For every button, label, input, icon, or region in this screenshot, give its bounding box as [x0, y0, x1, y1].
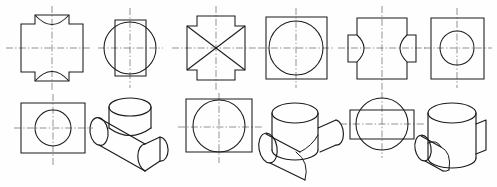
g3-iso-right-back-branch — [476, 120, 486, 154]
g3-isometric-vertical-cylinder-small-branch — [413, 103, 486, 171]
g3-front-view-cross-concave-sides — [338, 6, 425, 90]
g3-front-left-intersection-curve — [357, 35, 364, 62]
g1-isometric-tee-branch-cylinder — [88, 98, 168, 171]
g2-iso-right-branch-top-edge — [318, 120, 336, 128]
g3-top-view-circle-over-horizontal-rectangle — [340, 92, 425, 158]
g2-side-view-square-with-circle — [258, 8, 335, 88]
g2-iso-vertical-bottom-arc — [272, 150, 318, 160]
g3-side-rectangle — [431, 18, 484, 79]
g3-iso-branch-intersection-curve — [441, 147, 450, 170]
technical-drawing-canvas — [0, 0, 497, 187]
g1-front-view-cross-concave-top-bottom — [6, 6, 92, 90]
g1-iso-branch-top-ellipse — [109, 98, 151, 116]
g2-front-view-cross-with-diagonals — [172, 6, 258, 90]
g2-iso-right-branch-bottom-edge — [320, 145, 336, 152]
g2-iso-horizontal-bottom-edge — [270, 163, 305, 180]
g2-iso-vertical-top-ellipse — [272, 103, 318, 123]
g1-side-view-circle-over-rectangle — [98, 8, 163, 88]
g1-iso-main-cylinder-top-edge — [99, 118, 145, 144]
g1-iso-main-cylinder-left-face — [88, 116, 110, 146]
g2-iso-horizontal-top-edge — [266, 134, 300, 152]
drawing-sheet — [0, 0, 497, 187]
g1-iso-branch-intersection-curve — [109, 128, 151, 136]
g2-iso-horizontal-left-face — [257, 132, 280, 165]
g2-isometric-crossing-cylinders — [257, 103, 344, 180]
g3-iso-vertical-top-ellipse — [428, 103, 476, 123]
group-3-small-branch-into-large-cylinder — [338, 6, 492, 171]
g3-iso-branch-end-face — [413, 134, 433, 162]
g3-side-view-rectangle-with-small-circle — [424, 8, 492, 88]
g1-top-view-rectangle-with-circle — [14, 94, 93, 166]
g1-iso-right-end-cap — [160, 137, 168, 161]
group-1-equal-diameter-through-cylinder — [6, 6, 168, 171]
g3-front-right-intersection-curve — [400, 35, 407, 62]
g3-iso-branch-bottom-edge — [425, 161, 443, 171]
g2-iso-intersection-curve-upper — [300, 135, 318, 152]
g3-iso-branch-lower-join — [443, 170, 449, 171]
g2-top-view-rectangle-with-circle — [178, 93, 262, 163]
g1-iso-main-cylinder-right-extension — [145, 137, 160, 171]
group-2-equal-diameter-perpendicular-cylinders — [172, 6, 343, 180]
